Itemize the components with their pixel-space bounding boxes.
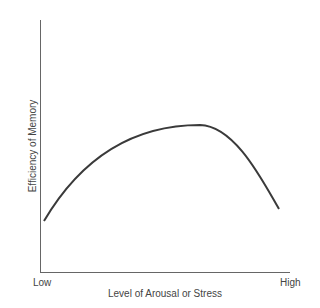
y-axis-label: Efficiency of Memory xyxy=(27,100,38,193)
x-tick-low: Low xyxy=(33,277,51,288)
x-tick-high: High xyxy=(280,277,301,288)
chart-canvas xyxy=(0,0,320,308)
x-axis-label: Level of Arousal or Stress xyxy=(108,288,222,299)
inverted-u-curve xyxy=(44,125,279,221)
